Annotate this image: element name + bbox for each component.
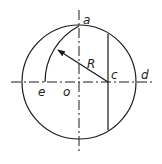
label-R: R (87, 57, 95, 71)
geometry-diagram: a R c d e o (0, 0, 162, 164)
label-o: o (63, 85, 70, 99)
label-c: c (111, 68, 118, 82)
label-a: a (83, 13, 90, 27)
arc-radius-R (45, 26, 79, 82)
label-e: e (38, 85, 45, 99)
radius-arrow (58, 50, 108, 82)
label-d: d (141, 68, 149, 82)
